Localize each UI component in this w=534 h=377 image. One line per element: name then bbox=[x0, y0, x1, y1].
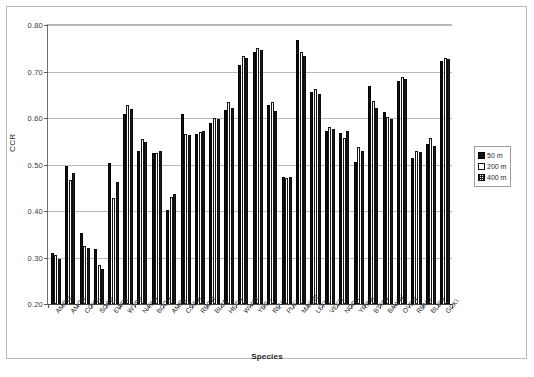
bar-group bbox=[120, 25, 134, 304]
bar bbox=[325, 131, 328, 304]
x-tick-mark bbox=[365, 304, 366, 308]
bar bbox=[401, 77, 404, 304]
bar bbox=[296, 40, 299, 304]
bar bbox=[141, 139, 144, 304]
x-tick-mark bbox=[192, 304, 193, 308]
bar bbox=[282, 177, 285, 304]
y-tick-label: 0.80 bbox=[28, 21, 43, 30]
x-tick-mark bbox=[279, 304, 280, 308]
bar bbox=[372, 101, 375, 304]
x-tick-mark bbox=[264, 304, 265, 308]
x-tick-mark bbox=[149, 304, 150, 308]
bar bbox=[419, 152, 422, 304]
bar-group bbox=[77, 25, 91, 304]
bar-group bbox=[221, 25, 235, 304]
bar bbox=[126, 105, 129, 304]
bar bbox=[346, 131, 349, 304]
legend-label: 400 m bbox=[487, 174, 506, 181]
bar bbox=[303, 56, 306, 304]
chart-figure: CCR 0.200.300.400.500.600.700.80 AMROAMC… bbox=[0, 0, 534, 377]
legend-entry: 400 m bbox=[478, 172, 506, 183]
bar bbox=[354, 162, 357, 304]
bar bbox=[332, 129, 335, 304]
x-tick-mark bbox=[163, 304, 164, 308]
bar bbox=[433, 146, 436, 304]
bar-group bbox=[48, 25, 62, 304]
x-tick-mark bbox=[62, 304, 63, 308]
bar bbox=[173, 194, 176, 304]
bar-group bbox=[236, 25, 250, 304]
x-tick-mark bbox=[178, 304, 179, 308]
bar-group bbox=[409, 25, 423, 304]
bar bbox=[137, 151, 140, 304]
bar bbox=[361, 151, 364, 304]
bar bbox=[227, 102, 230, 304]
bar bbox=[166, 210, 169, 304]
x-tick-mark bbox=[394, 304, 395, 308]
bar bbox=[116, 182, 119, 304]
bar bbox=[274, 111, 277, 304]
bar bbox=[328, 127, 331, 304]
bar-group bbox=[91, 25, 105, 304]
bar bbox=[242, 56, 245, 304]
bar-group bbox=[438, 25, 452, 304]
bar bbox=[256, 48, 259, 304]
bar bbox=[415, 151, 418, 304]
bar bbox=[69, 180, 72, 304]
x-tick-mark bbox=[452, 304, 453, 308]
x-tick-mark bbox=[91, 304, 92, 308]
x-tick-mark bbox=[250, 304, 251, 308]
bar bbox=[213, 118, 216, 304]
bar bbox=[80, 233, 83, 304]
x-tick-mark bbox=[135, 304, 136, 308]
bar bbox=[447, 59, 450, 304]
bar-group bbox=[207, 25, 221, 304]
bar bbox=[271, 102, 274, 304]
bar-group bbox=[178, 25, 192, 304]
x-tick-mark bbox=[409, 304, 410, 308]
bar-group bbox=[380, 25, 394, 304]
bar bbox=[195, 134, 198, 304]
x-tick-mark bbox=[380, 304, 381, 308]
bar bbox=[87, 248, 90, 304]
plot-area: 0.200.300.400.500.600.700.80 AMROAMCRCOY… bbox=[47, 24, 452, 305]
x-tick-mark bbox=[106, 304, 107, 308]
bar bbox=[404, 79, 407, 304]
bar bbox=[108, 163, 111, 304]
bar-group bbox=[351, 25, 365, 304]
x-tick-mark bbox=[236, 304, 237, 308]
bar bbox=[310, 92, 313, 305]
y-tick-label: 0.60 bbox=[28, 114, 43, 123]
bar bbox=[314, 89, 317, 304]
y-tick-label: 0.40 bbox=[28, 207, 43, 216]
bar-group bbox=[423, 25, 437, 304]
bar bbox=[217, 119, 220, 304]
bar bbox=[144, 142, 147, 304]
legend-entry: 50 m bbox=[478, 150, 506, 161]
bar bbox=[289, 177, 292, 304]
bar bbox=[155, 153, 158, 304]
bar bbox=[181, 114, 184, 304]
bar bbox=[285, 178, 288, 304]
x-tick-mark bbox=[221, 304, 222, 308]
bar bbox=[72, 173, 75, 304]
bar-group bbox=[264, 25, 278, 304]
x-tick-mark bbox=[438, 304, 439, 308]
chart-legend: 50 m200 m400 m bbox=[474, 146, 511, 187]
bar bbox=[318, 94, 321, 304]
bar-group bbox=[394, 25, 408, 304]
bar bbox=[184, 134, 187, 304]
y-tick-label: 0.70 bbox=[28, 67, 43, 76]
bar bbox=[123, 114, 126, 304]
bar bbox=[65, 166, 68, 304]
bar bbox=[54, 255, 57, 304]
x-tick-mark bbox=[77, 304, 78, 308]
y-tick-label: 0.30 bbox=[28, 253, 43, 262]
bar bbox=[224, 110, 227, 304]
bar-group bbox=[308, 25, 322, 304]
bar bbox=[357, 147, 360, 304]
x-tick-mark bbox=[207, 304, 208, 308]
bar bbox=[245, 58, 248, 304]
bar-group bbox=[135, 25, 149, 304]
x-tick-mark bbox=[351, 304, 352, 308]
